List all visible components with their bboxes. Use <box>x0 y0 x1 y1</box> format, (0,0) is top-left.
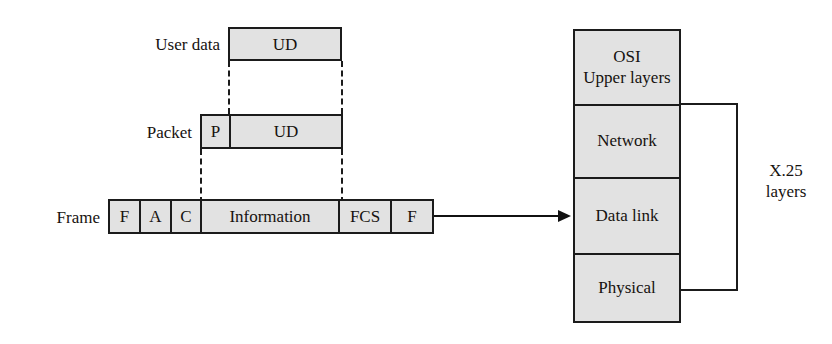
stack-layer-osi-line1: OSI <box>613 47 640 67</box>
cell-flag-end: F <box>392 201 432 232</box>
stack-layer-data-link: Data link <box>575 179 679 255</box>
dashed-connector-ud-right <box>341 61 343 114</box>
cell-fcs: FCS <box>340 201 392 232</box>
stack-layer-osi-upper-layers: OSI Upper layers <box>575 31 679 106</box>
stack-layer-physical: Physical <box>575 255 679 321</box>
x25-layers-bracket <box>679 103 738 291</box>
x25-layers-label-line1: X.25 <box>746 160 826 181</box>
cell-ud-packet: UD <box>231 116 341 147</box>
row-label-packet: Packet <box>80 124 192 141</box>
x25-layers-label-line2: layers <box>746 181 826 202</box>
x25-encapsulation-diagram: User data UD Packet P UD Frame F A C Inf… <box>0 0 832 344</box>
dashed-connector-packet-left <box>200 149 202 203</box>
arrow-shaft-frame-to-data-link <box>434 215 560 217</box>
cell-flag-start: F <box>110 201 141 232</box>
cell-address: A <box>141 201 172 232</box>
arrow-head-frame-to-data-link <box>558 210 571 222</box>
pdu-packet: P UD <box>200 114 343 149</box>
stack-layer-osi-line2: Upper layers <box>583 68 670 88</box>
cell-information: Information <box>202 201 340 232</box>
x25-layers-label: X.25 layers <box>746 160 826 203</box>
stack-layer-network: Network <box>575 106 679 179</box>
row-label-frame: Frame <box>0 209 100 226</box>
dashed-connector-packet-right <box>341 149 343 203</box>
cell-ud: UD <box>230 29 340 59</box>
pdu-user-data: UD <box>228 27 342 61</box>
osi-layer-stack: OSI Upper layers Network Data link Physi… <box>573 29 681 323</box>
dashed-connector-ud-left <box>228 61 230 114</box>
cell-p: P <box>202 116 231 147</box>
row-label-user-data: User data <box>108 36 220 53</box>
cell-control: C <box>172 201 202 232</box>
pdu-frame: F A C Information FCS F <box>108 199 434 234</box>
